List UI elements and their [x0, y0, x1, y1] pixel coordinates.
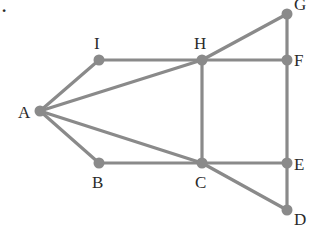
vertex-label-g: G: [294, 0, 306, 14]
vertex-label-h: H: [194, 34, 206, 53]
vertex-label-a: A: [18, 103, 31, 122]
vertex-label-e: E: [294, 155, 304, 174]
edges-group: [40, 14, 287, 210]
vertex-label-c: C: [195, 173, 206, 192]
problem-number-fragment: .: [2, 0, 6, 16]
vertex-label-i: I: [94, 34, 100, 53]
graph-diagram: . AIHGFBCED: [0, 0, 309, 238]
vertices-group: [35, 9, 293, 216]
edge-c-d: [202, 163, 287, 210]
vertex-label-f: F: [294, 51, 303, 70]
vertex-b: [94, 158, 105, 169]
vertex-i: [94, 55, 105, 66]
vertex-e: [282, 158, 293, 169]
vertex-h: [197, 55, 208, 66]
labels-group: AIHGFBCED: [18, 0, 306, 229]
edge-a-c: [40, 111, 202, 163]
vertex-c: [197, 158, 208, 169]
vertex-label-b: B: [92, 173, 103, 192]
vertex-f: [282, 55, 293, 66]
edge-a-h: [40, 60, 202, 111]
vertex-label-d: D: [294, 210, 306, 229]
vertex-a: [35, 106, 46, 117]
vertex-g: [282, 9, 293, 20]
edge-h-g: [202, 14, 287, 60]
vertex-d: [282, 205, 293, 216]
